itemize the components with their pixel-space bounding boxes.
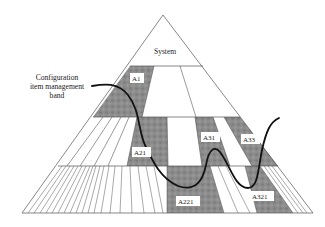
region-a21 xyxy=(127,117,168,166)
svg-text:A1: A1 xyxy=(132,75,141,83)
band-label-line-2: item management xyxy=(14,82,100,91)
svg-text:A321: A321 xyxy=(252,193,268,201)
label-a221: A221 xyxy=(176,196,200,206)
label-a321: A321 xyxy=(250,191,274,201)
pyramid-diagram: System A1 A21 A31 A33 A221 A321 xyxy=(0,0,325,227)
label-a21: A21 xyxy=(132,147,151,157)
shaded-regions xyxy=(93,66,293,213)
band-label: Configuration item management band xyxy=(14,73,100,100)
band-label-line-1: Configuration xyxy=(14,73,100,82)
system-label: System xyxy=(154,47,176,56)
svg-text:A221: A221 xyxy=(178,198,194,206)
label-a1: A1 xyxy=(130,73,144,83)
svg-text:A33: A33 xyxy=(243,136,256,144)
svg-text:A31: A31 xyxy=(203,134,216,142)
label-a31: A31 xyxy=(201,132,220,142)
label-a33: A33 xyxy=(241,134,260,144)
band-label-line-3: band xyxy=(14,91,100,100)
svg-text:A21: A21 xyxy=(134,149,147,157)
